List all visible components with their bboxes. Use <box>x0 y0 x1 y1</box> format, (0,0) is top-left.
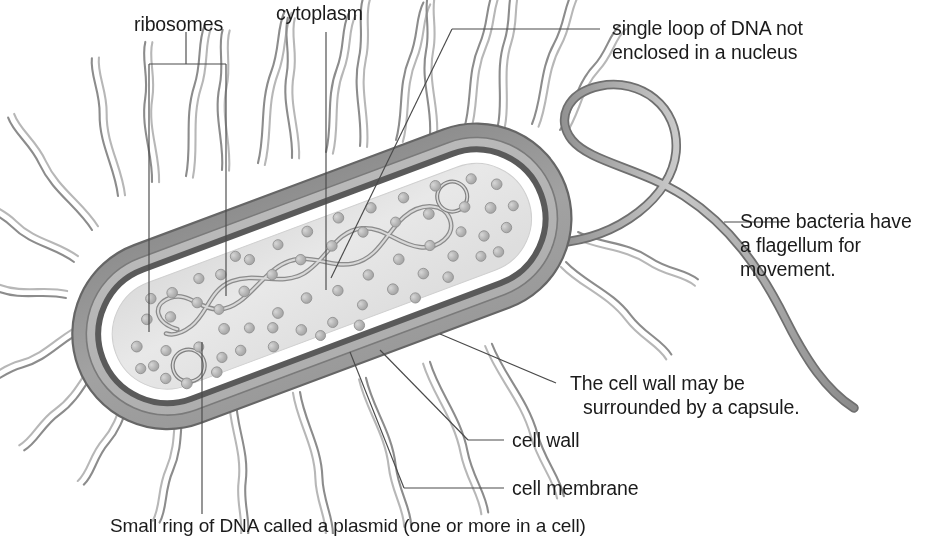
label-capsule-line2: surrounded by a capsule. <box>583 396 800 420</box>
label-flagellum-line1: Some bacteria have <box>740 210 912 234</box>
label-dna-line2: enclosed in a nucleus <box>612 41 797 65</box>
label-dna-line1: single loop of DNA not <box>612 17 803 41</box>
label-flagellum-line3: movement. <box>740 258 836 282</box>
label-plasmid: Small ring of DNA called a plasmid (one … <box>110 514 586 538</box>
label-cytoplasm: cytoplasm <box>276 2 363 26</box>
label-cell-membrane: cell membrane <box>512 477 639 501</box>
label-ribosomes: ribosomes <box>134 13 223 37</box>
label-cell-wall: cell wall <box>512 429 579 453</box>
label-capsule-line1: The cell wall may be <box>570 372 745 396</box>
leader-capsule <box>440 334 556 383</box>
leader-cell-membrane-diagonal <box>350 352 404 488</box>
label-flagellum-line2: a flagellum for <box>740 234 861 258</box>
